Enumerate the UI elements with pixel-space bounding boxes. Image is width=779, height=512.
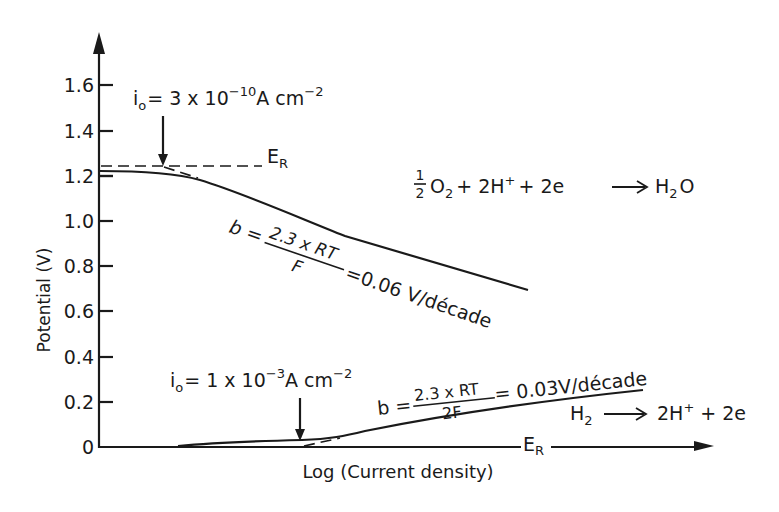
y-tick-label: 0.6: [64, 300, 94, 322]
svg-text:H2: H2: [570, 402, 593, 428]
y-tick-label: 0.2: [64, 391, 94, 413]
y-tick-label: 1.0: [64, 210, 94, 232]
svg-text:2F: 2F: [441, 402, 462, 423]
upper-io-label: io= 3 x 10−10A cm−2: [133, 84, 323, 113]
x-axis-arrow-icon: [694, 441, 714, 451]
svg-text:H2O: H2O: [655, 175, 695, 201]
y-tick-label: 1.2: [64, 165, 94, 187]
svg-text:b =: b =: [376, 394, 412, 419]
upper-tafel-slope-label: b = 2.3 x RT F =0.06 V/décade: [221, 209, 498, 341]
tafel-chart: 0 0.2 0.4 0.6 0.8 1.0 1.2 1.4 1.6 Potent…: [0, 0, 779, 512]
svg-text:b =: b =: [227, 215, 266, 247]
y-tick-label: 0: [82, 436, 94, 458]
y-tick-label: 0.8: [64, 255, 94, 277]
y-tick-label: 0.4: [64, 346, 94, 368]
svg-text:O2+ 2H++ 2e: O2+ 2H++ 2e: [430, 173, 564, 201]
svg-text:2H++ 2e: 2H++ 2e: [657, 400, 746, 424]
lower-tafel-slope-label: b = 2.3 x RT 2F = 0.03V/décade: [375, 362, 649, 430]
svg-text:2: 2: [416, 185, 425, 201]
y-ticks: [99, 85, 113, 402]
lower-io-label: io= 1 x 10−3A cm−2: [170, 366, 352, 395]
upper-io-arrow-icon: [158, 154, 168, 166]
y-tick-label: 1.4: [64, 120, 94, 142]
upper-er-label: ER: [267, 145, 288, 171]
svg-text:1: 1: [416, 167, 425, 183]
x-axis-label: Log (Current density): [302, 461, 493, 482]
y-tick-labels: 0 0.2 0.4 0.6 0.8 1.0 1.2 1.4 1.6: [64, 74, 94, 458]
y-tick-label: 1.6: [64, 74, 94, 96]
y-axis-label: Potential (V): [34, 248, 54, 353]
svg-text:F: F: [290, 255, 306, 277]
y-axis-arrow-icon: [93, 32, 105, 54]
lower-reaction-label: H2 2H++ 2e: [570, 400, 746, 428]
upper-reaction-label: 1 2 O2+ 2H++ 2e H2O: [414, 167, 695, 201]
svg-text:2.3 x RT: 2.3 x RT: [413, 379, 480, 405]
svg-text:=0.06 V/décade: =0.06 V/décade: [343, 261, 495, 332]
